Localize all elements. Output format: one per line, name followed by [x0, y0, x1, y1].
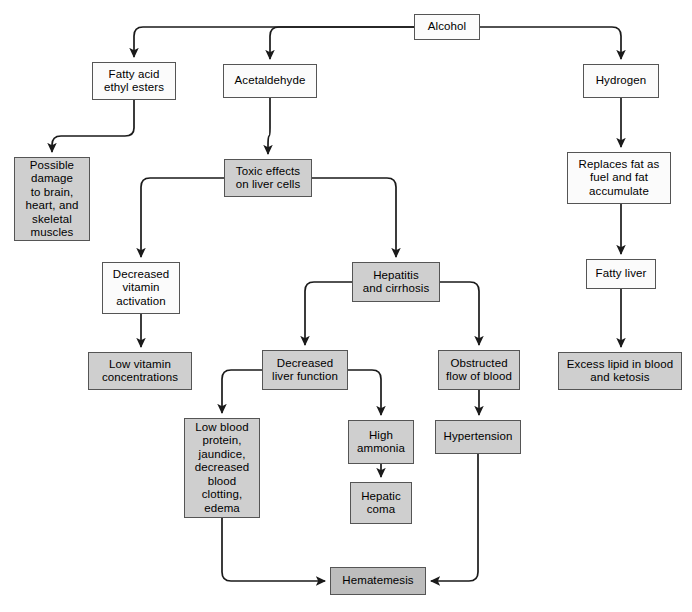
flowchart-diagram: AlcoholFatty acid ethyl estersAcetaldehy… [0, 0, 692, 612]
node-hepatitis: Hepatitis and cirrhosis [352, 262, 440, 302]
connector-toxic-to-hepatitis [312, 178, 396, 257]
node-low-blood: Low blood protein, jaundice, decreased b… [184, 418, 260, 518]
node-label-hepatic-coma: Hepatic coma [358, 490, 404, 517]
node-label-hematemesis: Hematemesis [339, 574, 416, 588]
node-decreased-liver: Decreased liver function [262, 350, 348, 390]
node-high-ammonia: High ammonia [348, 420, 414, 464]
node-acetaldehyde: Acetaldehyde [223, 64, 317, 98]
connector-decreased-liver-to-ammonia [348, 370, 381, 415]
node-hydrogen: Hydrogen [583, 64, 659, 98]
connector-low-blood-to-hematemesis [222, 518, 325, 581]
node-hematemesis: Hematemesis [330, 567, 426, 595]
node-label-low-blood: Low blood protein, jaundice, decreased b… [192, 421, 253, 516]
node-decreased-vit: Decreased vitamin activation [102, 262, 180, 314]
node-label-hepatitis: Hepatitis and cirrhosis [360, 269, 433, 296]
node-obstructed-flow: Obstructed flow of blood [438, 350, 520, 390]
node-label-hydrogen: Hydrogen [593, 74, 650, 88]
node-fatty-liver: Fatty liver [586, 259, 656, 289]
connector-alcohol-to-acetaldehyde [270, 27, 414, 59]
connector-alcohol-to-hydrogen [480, 27, 621, 59]
connector-hepatitis-to-obstructed [440, 282, 479, 345]
connector-fatty-acid-to-possible-damage [52, 100, 134, 152]
node-label-decreased-liver: Decreased liver function [269, 357, 341, 384]
node-alcohol: Alcohol [414, 14, 480, 40]
node-toxic-effects: Toxic effects on liver cells [224, 159, 312, 197]
node-replaces-fat: Replaces fat as fuel and fat accumulate [567, 152, 671, 204]
node-label-acetaldehyde: Acetaldehyde [232, 74, 309, 88]
connector-alcohol-to-fatty-acid [134, 27, 414, 57]
node-excess-lipid: Excess lipid in blood and ketosis [558, 352, 682, 390]
connector-hypertension-to-hematemesis [431, 454, 478, 581]
node-fatty-acid: Fatty acid ethyl esters [92, 62, 176, 100]
node-label-excess-lipid: Excess lipid in blood and ketosis [564, 358, 676, 385]
connector-toxic-to-decreased-vit [141, 178, 224, 257]
node-label-possible-damage: Possible damage to brain, heart, and ske… [23, 159, 82, 240]
connector-decreased-liver-to-low-blood [222, 370, 262, 413]
node-label-hypertension: Hypertension [441, 430, 516, 444]
connector-hepatitis-to-decreased-liver [305, 282, 352, 345]
node-label-obstructed-flow: Obstructed flow of blood [443, 357, 515, 384]
node-label-toxic-effects: Toxic effects on liver cells [233, 165, 304, 192]
node-label-replaces-fat: Replaces fat as fuel and fat accumulate [576, 158, 663, 199]
node-hypertension: Hypertension [435, 420, 521, 454]
node-label-alcohol: Alcohol [425, 20, 469, 34]
node-label-high-ammonia: High ammonia [354, 429, 408, 456]
node-possible-damage: Possible damage to brain, heart, and ske… [14, 157, 90, 241]
node-label-low-vitamin: Low vitamin concentrations [99, 358, 181, 385]
node-low-vitamin: Low vitamin concentrations [88, 352, 192, 390]
node-label-fatty-liver: Fatty liver [593, 267, 650, 281]
node-label-fatty-acid: Fatty acid ethyl esters [101, 68, 167, 95]
node-hepatic-coma: Hepatic coma [350, 482, 412, 524]
connector-acetaldehyde-to-toxic [268, 98, 270, 154]
node-label-decreased-vit: Decreased vitamin activation [110, 268, 173, 309]
